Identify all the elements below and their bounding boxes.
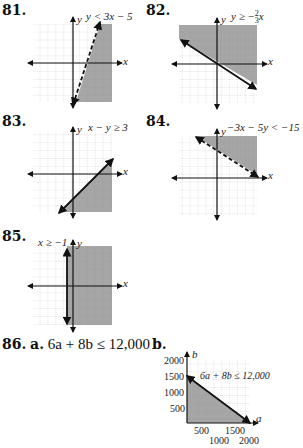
axis-x-label: x	[268, 169, 273, 181]
problem-81-number: 81.	[2, 2, 26, 18]
problem-83-number: 83.	[2, 113, 26, 129]
graph-81	[28, 17, 122, 108]
y-tick: 500	[170, 403, 185, 414]
problem-86-answer: 86. a. 6a + 8b ≤ 12,000	[2, 336, 150, 353]
y-tick: 1000	[164, 387, 184, 398]
axis-y-label: y	[77, 123, 82, 135]
axis-y-label: y	[77, 237, 82, 249]
problem-84-number: 84.	[146, 113, 170, 129]
x-tick: 2000	[239, 435, 259, 446]
problem-82-inequality: y ≥ −23x	[231, 10, 264, 24]
axis-x-label: x	[268, 55, 273, 67]
problem-86-number: 86.	[2, 336, 26, 352]
part-a-inequality: 6a + 8b ≤ 12,000	[48, 336, 150, 352]
problem-85-number: 85.	[2, 228, 26, 244]
graph-86-label: 6a + 8b ≤ 12,000	[200, 370, 270, 381]
problem-82-number: 82.	[146, 2, 170, 18]
axis-x-label: x	[123, 277, 128, 289]
graph-85	[28, 240, 122, 332]
part-a-label: a.	[30, 336, 44, 352]
graph-86b	[187, 352, 258, 423]
graph-84	[172, 129, 267, 220]
problem-83-inequality: x − y ≥ 3	[88, 121, 128, 133]
problem-84-inequality: −3x − 5y < −15	[227, 121, 299, 133]
y-tick: 1500	[164, 371, 184, 382]
graph-82	[172, 18, 267, 109]
problem-85-inequality: x ≥ −1	[38, 236, 67, 248]
axis-x-label: x	[123, 55, 128, 67]
axis-y-label: y	[77, 13, 82, 25]
x-tick: 500	[194, 425, 209, 436]
x-tick: 1000	[209, 435, 229, 446]
axis-x-label: x	[123, 165, 128, 177]
axis-y-label: y	[221, 13, 226, 25]
y-tick: 2000	[164, 355, 184, 366]
problem-81-inequality: y < 3x − 5	[86, 10, 133, 22]
axis-b-label: b	[192, 348, 198, 360]
graph-83	[28, 127, 122, 218]
axis-a-label: a	[256, 412, 262, 424]
axis-y-label: y	[221, 125, 226, 137]
part-b-label: b.	[152, 336, 167, 352]
